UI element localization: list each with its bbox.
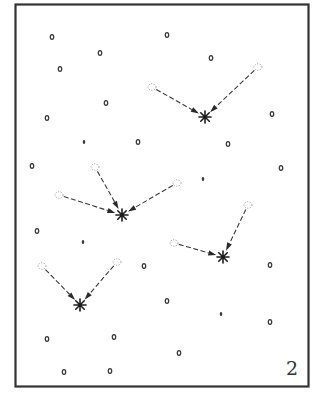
motion-arrow-line	[229, 210, 245, 244]
arrow-head-icon	[191, 107, 199, 113]
motion-arrow-line	[156, 89, 192, 109]
merged-star-icon	[217, 251, 229, 263]
particle-dot	[220, 312, 223, 316]
star-core	[221, 255, 225, 259]
particle-dot	[35, 229, 38, 234]
motion-arrow-line	[216, 70, 254, 106]
particles	[30, 33, 282, 375]
particle-dot	[165, 33, 168, 38]
mergers	[38, 64, 262, 311]
merger-group	[38, 259, 121, 311]
particle-dot	[177, 351, 180, 356]
merger-group	[55, 164, 181, 221]
particle-dot	[45, 116, 48, 121]
ghost-particle	[244, 202, 252, 208]
particle-dot	[268, 263, 271, 268]
particle-dot	[50, 35, 53, 40]
particle-dot	[98, 51, 101, 56]
arrow-head-icon	[128, 205, 136, 211]
arrow-head-icon	[112, 201, 118, 209]
particle-dot	[104, 101, 107, 106]
particle-dot	[62, 370, 65, 375]
star-core	[120, 213, 124, 217]
particle-dot	[136, 140, 139, 145]
star-core	[203, 115, 207, 119]
particle-merger-diagram: 2	[0, 0, 319, 395]
motion-arrow-line	[90, 266, 114, 294]
particle-dot	[279, 166, 282, 171]
merger-group	[170, 202, 252, 263]
motion-arrow-line	[45, 270, 69, 295]
motion-arrow-line	[179, 244, 209, 253]
motion-arrow-line	[135, 186, 173, 208]
particle-dot	[226, 142, 229, 147]
particle-dot	[58, 67, 61, 72]
ghost-particle	[55, 192, 63, 198]
arrow-head-icon	[226, 242, 232, 250]
particle-dot	[30, 164, 33, 169]
arrow-head-icon	[85, 292, 92, 300]
merger-group	[148, 64, 262, 123]
particle-dot	[270, 112, 273, 117]
figure-frame	[16, 5, 309, 387]
ghost-particle	[91, 164, 99, 170]
ghost-particle	[170, 240, 178, 246]
particle-dot	[142, 264, 145, 269]
ghost-particle	[148, 84, 156, 90]
particle-dot	[209, 56, 212, 61]
arrow-head-icon	[210, 105, 218, 112]
particle-dot	[83, 140, 86, 144]
ghost-particle	[38, 263, 46, 269]
merged-star-icon	[74, 299, 86, 311]
motion-arrow-line	[64, 197, 108, 211]
arrow-head-icon	[107, 208, 115, 213]
ghost-particle	[113, 259, 121, 265]
arrow-head-icon	[208, 250, 216, 255]
particle-dot	[268, 320, 271, 325]
merged-star-icon	[116, 209, 128, 221]
particle-dot	[202, 177, 205, 181]
panel-label: 2	[286, 357, 298, 379]
ghost-particle	[254, 64, 262, 70]
motion-arrow-line	[97, 171, 114, 202]
merged-star-icon	[199, 111, 211, 123]
particle-dot	[82, 240, 85, 244]
particle-dot	[112, 335, 115, 340]
particle-dot	[108, 369, 111, 374]
ghost-particle	[173, 180, 181, 186]
particle-dot	[45, 337, 48, 342]
star-core	[78, 303, 82, 307]
particle-dot	[165, 299, 168, 304]
